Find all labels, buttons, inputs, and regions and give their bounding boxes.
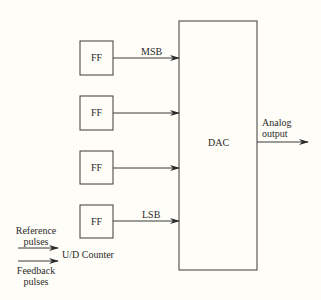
lsb-label: LSB <box>142 209 160 220</box>
feedback-pulses-label-line1: Feedback <box>14 265 58 276</box>
analog-output-label-line1: Analog <box>262 117 291 128</box>
dac-label: DAC <box>208 137 229 148</box>
msb-label: MSB <box>141 46 162 57</box>
reference-pulses-label-line2: pulses <box>14 236 58 247</box>
ff-label-3: FF <box>80 162 113 173</box>
reference-pulses-label-line1: Reference <box>14 225 58 236</box>
ff-label-2: FF <box>80 107 113 118</box>
feedback-pulses-label-line2: pulses <box>14 276 58 287</box>
ud-counter-label: U/D Counter <box>62 249 114 260</box>
ff-label-4: FF <box>80 216 113 227</box>
diagram-canvas <box>0 0 321 300</box>
ff-label-1: FF <box>80 52 113 63</box>
analog-output-label-line2: output <box>262 128 288 139</box>
